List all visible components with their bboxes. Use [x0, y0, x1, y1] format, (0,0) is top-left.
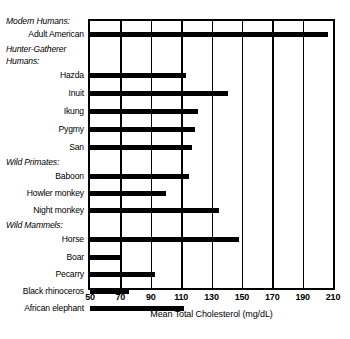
x-tick-210: 210 [326, 292, 340, 302]
x-tick-190: 190 [295, 292, 309, 302]
x-tick-70: 70 [116, 292, 126, 302]
bar [90, 237, 239, 242]
bar [90, 73, 186, 78]
x-tick-150: 150 [235, 292, 249, 302]
category-label: Pecarry [0, 270, 84, 279]
bar [90, 145, 192, 150]
category-label: San [0, 143, 84, 152]
x-axis-title: Mean Total Cholesterol (mg/dL) [88, 309, 335, 319]
bar [90, 255, 120, 260]
category-label: Horse [0, 235, 84, 244]
gridline-130 [212, 21, 213, 288]
gridline-90 [151, 21, 152, 288]
group-label: Wild Mammels: [6, 221, 63, 230]
category-label: Adult American [0, 30, 84, 39]
category-label: Hazda [0, 71, 84, 80]
group-label: Hunter-Gatherer [6, 45, 66, 54]
bar [90, 191, 166, 196]
bar [90, 109, 198, 114]
bar [90, 208, 219, 213]
gridline-70 [120, 21, 121, 288]
gridline-170 [272, 21, 273, 288]
gridline-150 [242, 21, 243, 288]
gridline-190 [303, 21, 304, 288]
group-label: Humans: [6, 57, 39, 66]
bar [90, 91, 228, 96]
bar [90, 174, 189, 179]
category-label: Night monkey [0, 206, 84, 215]
bar [90, 32, 328, 37]
category-label: Pygmy [0, 125, 84, 134]
bar [90, 127, 195, 132]
category-label: Howler monkey [0, 189, 84, 198]
category-label-column: Modern Humans:Adult AmericanHunter-Gathe… [0, 17, 86, 290]
plot-area [88, 19, 335, 290]
bar [90, 272, 155, 277]
gridline-110 [181, 21, 182, 288]
x-axis-tick-labels: 507090110130150170190210 [88, 292, 335, 304]
category-label: African elephant [0, 304, 84, 313]
group-label: Modern Humans: [6, 17, 70, 26]
cholesterol-bar-chart: Modern Humans:Adult AmericanHunter-Gathe… [0, 0, 350, 339]
category-label: Baboon [0, 172, 84, 181]
x-tick-130: 130 [204, 292, 218, 302]
category-label: Black rhinoceros [0, 287, 84, 296]
group-label: Wild Primates: [6, 158, 59, 167]
x-tick-90: 90 [146, 292, 156, 302]
category-label: Boar [0, 253, 84, 262]
x-tick-170: 170 [265, 292, 279, 302]
category-label: Ikung [0, 107, 84, 116]
x-tick-110: 110 [174, 292, 188, 302]
x-tick-50: 50 [85, 292, 95, 302]
category-label: Inuit [0, 89, 84, 98]
